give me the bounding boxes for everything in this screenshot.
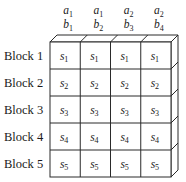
row-label: Block 4	[4, 130, 44, 144]
cell-value-subscript: 1	[125, 55, 129, 64]
cell-value-subscript: 3	[64, 109, 68, 118]
column-header-a-subscript: 1	[69, 10, 73, 19]
cell-value-subscript: 3	[125, 109, 129, 118]
column-header-b-subscript: 2	[99, 24, 103, 33]
cell-value-subscript: 3	[155, 109, 159, 118]
column-header-a: a2	[124, 4, 134, 19]
column-header-b: b1	[63, 18, 73, 33]
row-label: Block 3	[4, 103, 43, 117]
cell-value-subscript: 5	[125, 163, 129, 172]
cell-value-subscript: 1	[95, 55, 99, 64]
cell-value-subscript: 5	[155, 163, 159, 172]
cell-value-subscript: 4	[125, 136, 129, 145]
cell-value-subscript: 4	[95, 136, 99, 145]
cell-value-subscript: 5	[64, 163, 68, 172]
cell-value-subscript: 2	[125, 82, 129, 91]
row-label: Block 5	[4, 157, 43, 171]
cell-value-subscript: 4	[155, 136, 159, 145]
cell-value-subscript: 1	[155, 55, 159, 64]
column-header-b-subscript: 3	[130, 24, 134, 33]
column-header-a-subscript: 1	[99, 10, 103, 19]
cell-value-subscript: 1	[64, 55, 68, 64]
column-header-b: b2	[94, 18, 104, 33]
right-face	[171, 35, 178, 177]
column-header-b-subscript: 1	[69, 24, 73, 33]
cell-value-subscript: 2	[155, 82, 159, 91]
cell-value-subscript: 2	[95, 82, 99, 91]
column-header-b: b4	[154, 18, 164, 33]
cell-value-subscript: 4	[64, 136, 68, 145]
column-header-a: a1	[94, 4, 104, 19]
column-header-b-subscript: 4	[160, 24, 164, 33]
row-labels: Block 1Block 2Block 3Block 4Block 5	[4, 49, 44, 171]
column-header-a-subscript: 2	[130, 10, 134, 19]
row-label: Block 2	[4, 76, 43, 90]
cell-value-subscript: 5	[95, 163, 99, 172]
row-label: Block 1	[4, 49, 43, 63]
column-header-a: a1	[63, 4, 73, 19]
block-design-diagram: a1b1a1b2a2b3a2b4 Block 1Block 2Block 3Bl…	[0, 0, 186, 182]
column-header-a-subscript: 2	[160, 10, 164, 19]
cell-value-subscript: 3	[95, 109, 99, 118]
cell-value-subscript: 2	[64, 82, 68, 91]
column-header-b: b3	[124, 18, 134, 33]
column-headers: a1b1a1b2a2b3a2b4	[63, 4, 164, 33]
column-header-a: a2	[154, 4, 164, 19]
